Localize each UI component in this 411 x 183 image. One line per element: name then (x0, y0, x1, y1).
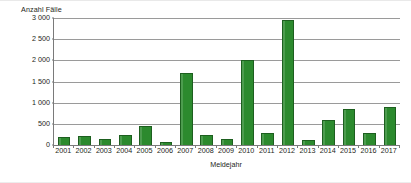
plot-area: 05001 0001 5002 0002 5003 000 (53, 18, 400, 146)
x-axis-ticks: 2001200220032004200520062007200820092010… (53, 146, 399, 158)
x-axis-tick-mark (134, 145, 135, 148)
x-axis-tick-mark (277, 145, 278, 148)
x-axis-tick-label: 2007 (177, 146, 193, 156)
x-axis-tick-label: 2003 (96, 146, 112, 156)
x-axis-tick-mark (236, 145, 237, 148)
bar (302, 140, 315, 145)
bar (99, 139, 112, 145)
x-axis-tick-mark (257, 145, 258, 148)
y-axis-tick-label: 500 (38, 120, 50, 128)
bar (200, 135, 213, 145)
y-axis-tick-label: 0 (46, 141, 50, 149)
x-axis-tick-mark (114, 145, 115, 148)
bar (180, 73, 193, 145)
bar (221, 139, 234, 145)
bar (139, 126, 152, 145)
bar (58, 137, 71, 145)
x-axis-tick-mark (379, 145, 380, 148)
x-axis-tick-mark (53, 145, 54, 148)
x-axis-tick-label: 2004 (116, 146, 132, 156)
scan-edge-bottom (0, 182, 411, 183)
bar (343, 109, 356, 145)
x-axis-tick-label: 2002 (76, 146, 92, 156)
x-axis-tick-mark (195, 145, 196, 148)
bar (160, 142, 173, 145)
y-axis-tick-label: 2 000 (32, 56, 50, 64)
x-axis-tick-label: 2010 (238, 146, 254, 156)
x-axis-tick-mark (175, 145, 176, 148)
x-axis-tick-label: 2016 (360, 146, 376, 156)
x-axis-tick-label: 2014 (320, 146, 336, 156)
x-axis-tick-mark (73, 145, 74, 148)
x-axis-tick-label: 2013 (299, 146, 315, 156)
x-axis-tick-label: 2001 (55, 146, 71, 156)
x-axis-tick-mark (358, 145, 359, 148)
x-axis-tick-mark (94, 145, 95, 148)
bar (322, 120, 335, 145)
x-axis-tick-label: 2009 (218, 146, 234, 156)
scan-edge-top (0, 0, 411, 1)
y-axis-tick-label: 1 000 (32, 99, 50, 107)
bars-group (54, 18, 400, 145)
x-axis-tick-mark (338, 145, 339, 148)
x-axis-tick-mark (155, 145, 156, 148)
x-axis-tick-label: 2008 (198, 146, 214, 156)
x-axis-tick-mark (318, 145, 319, 148)
x-axis-tick-mark (216, 145, 217, 148)
x-axis-tick-label: 2017 (381, 146, 397, 156)
bar (241, 60, 254, 145)
bar (363, 133, 376, 145)
y-axis-tick-label: 3 000 (32, 14, 50, 22)
bar (78, 136, 91, 145)
x-axis-tick-label: 2012 (279, 146, 295, 156)
x-axis-tick-mark (297, 145, 298, 148)
bar (282, 20, 295, 145)
bar (384, 107, 397, 145)
y-axis-tick-label: 2 500 (32, 35, 50, 43)
x-axis-title: Meldejahr (53, 160, 399, 170)
bar (261, 133, 274, 145)
x-axis-tick-label: 2011 (259, 146, 274, 156)
bar-chart-figure: Anzahl Fälle 05001 0001 5002 0002 5003 0… (0, 0, 411, 183)
x-axis-tick-mark (399, 145, 400, 148)
x-axis-tick-label: 2015 (340, 146, 356, 156)
x-axis-tick-label: 2006 (157, 146, 173, 156)
y-axis-tick-label: 1 500 (32, 78, 50, 86)
x-axis-tick-label: 2005 (137, 146, 153, 156)
bar (119, 135, 132, 145)
